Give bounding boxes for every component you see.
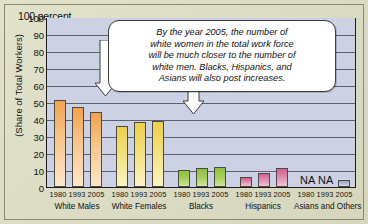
bar — [214, 167, 226, 187]
x-tick-years: 1980 1993 2005 — [170, 190, 232, 199]
y-tick-label: 30 — [0, 133, 44, 142]
na-label: NA — [300, 174, 315, 186]
bar — [72, 107, 84, 187]
bar — [276, 168, 288, 187]
bar — [90, 112, 102, 187]
x-group-label: Blacks — [170, 202, 232, 211]
x-group-label: Asians and Others — [294, 202, 356, 211]
x-group-asians-and-others: 1980 1993 2005Asians and Others — [294, 190, 356, 211]
x-group-label: White Males — [46, 202, 108, 211]
y-tick-label: 60 — [0, 82, 44, 91]
x-group-white-males: 1980 1993 2005White Males — [46, 190, 108, 211]
x-group-label: White Females — [108, 202, 170, 211]
bar — [258, 173, 270, 187]
x-group-hispanics: 1980 1993 2005Hispanics — [232, 190, 294, 211]
chart-figure: 100 percent (Share of Total Workers) 100… — [0, 0, 368, 224]
y-tick-label: 0 — [0, 184, 44, 193]
bar — [178, 170, 190, 187]
bar — [152, 121, 164, 187]
x-axis-labels: 1980 1993 2005White Males1980 1993 2005W… — [46, 190, 356, 220]
y-tick-label: 50 — [0, 99, 44, 108]
x-group-blacks: 1980 1993 2005Blacks — [170, 190, 232, 211]
callout-text: By the year 2005, the number ofwhite wom… — [140, 27, 303, 85]
y-tick-label: 40 — [0, 116, 44, 125]
x-group-label: Hispanics — [232, 202, 294, 211]
y-tick-label: 20 — [0, 150, 44, 159]
y-tick-label: 100 — [0, 14, 44, 23]
y-axis-ticks: 1009080706050403020100 — [0, 18, 44, 188]
y-tick-label: 90 — [0, 31, 44, 40]
y-tick-label: 70 — [0, 65, 44, 74]
bar — [134, 122, 146, 187]
y-tick-label: 10 — [0, 167, 44, 176]
x-tick-years: 1980 1993 2005 — [46, 190, 108, 199]
callout-annotation: By the year 2005, the number ofwhite wom… — [108, 20, 336, 92]
bar — [240, 177, 252, 187]
bar — [338, 180, 350, 187]
y-tick-label: 80 — [0, 48, 44, 57]
x-tick-years: 1980 1993 2005 — [108, 190, 170, 199]
bar — [54, 100, 66, 187]
x-tick-years: 1980 1993 2005 — [232, 190, 294, 199]
x-group-white-females: 1980 1993 2005White Females — [108, 190, 170, 211]
bar — [196, 168, 208, 187]
na-label: NA — [318, 174, 333, 186]
bar — [116, 126, 128, 187]
x-tick-years: 1980 1993 2005 — [294, 190, 356, 199]
